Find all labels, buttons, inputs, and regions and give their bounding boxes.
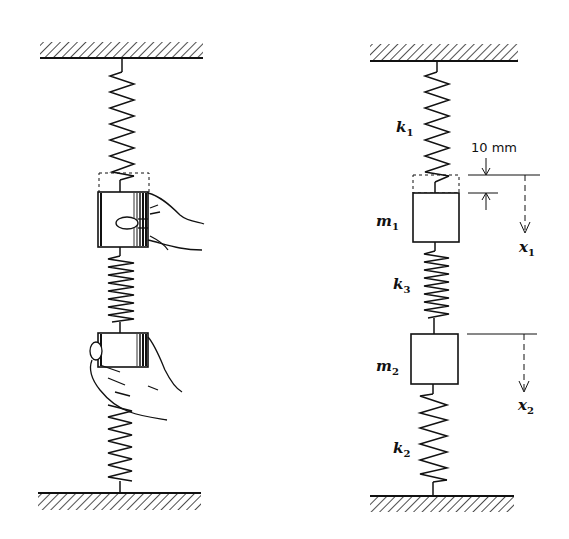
label-k3: k3 — [393, 275, 410, 295]
dimension-10mm: 10 mm — [471, 140, 517, 155]
spring-k1 — [425, 61, 449, 176]
label-m2: m2 — [376, 357, 399, 377]
label-k1: k1 — [396, 118, 413, 138]
displacement-x2-arrow — [467, 334, 537, 392]
left-figure — [38, 42, 204, 510]
right-figure: k1 m1 10 mm x1 k3 — [370, 44, 540, 512]
ceiling-right — [370, 44, 518, 61]
spring-k2 — [420, 384, 447, 496]
dimension-markers — [468, 158, 540, 210]
mass-m1 — [413, 193, 459, 242]
dashed-original-position-left — [99, 173, 149, 193]
ceiling-left — [40, 42, 203, 58]
lower-spring-left — [108, 405, 132, 493]
floor-left — [38, 493, 201, 510]
displacement-x1-arrow — [520, 175, 530, 233]
label-m1: m1 — [376, 212, 399, 232]
label-k2: k2 — [393, 439, 410, 459]
label-x2: x2 — [517, 396, 534, 416]
upper-spring-left — [110, 58, 134, 176]
floor-right — [370, 496, 514, 512]
mass-m2 — [411, 334, 458, 384]
diagram-canvas: k1 m1 10 mm x1 k3 — [0, 0, 569, 539]
mass-2-left — [98, 333, 148, 367]
label-x1: x1 — [518, 238, 535, 258]
middle-spring-left — [108, 247, 134, 333]
spring-k3 — [424, 242, 449, 334]
dashed-original-position-right — [413, 175, 459, 193]
